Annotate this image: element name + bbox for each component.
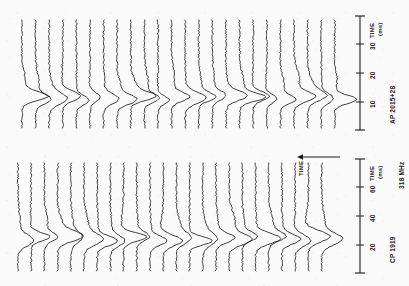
tick-label-bottom-60: 60 <box>370 185 377 193</box>
pulse-trace <box>83 163 103 271</box>
pulse-trace <box>48 20 67 128</box>
tick-label-bottom-40: 40 <box>370 214 377 222</box>
frequency-label: 318 MHz <box>399 162 406 189</box>
axis-title-top-line2: (ms) <box>377 23 383 36</box>
pulse-trace <box>198 20 216 128</box>
pulse-trace <box>89 20 101 128</box>
axis-title-top-line1: TIME <box>369 23 375 38</box>
tick-label-top-20: 20 <box>370 71 377 79</box>
pulse-trace <box>307 20 328 128</box>
pulse-trace <box>225 20 247 128</box>
pulse-trace <box>171 20 190 128</box>
pulse-trace <box>266 20 277 128</box>
pulse-trace <box>212 20 226 128</box>
pulse-stack-panel-bottom: 20 40 60 TIME (ms) CP 1919 318 MHz <box>0 143 409 286</box>
pulse-trace <box>130 20 156 128</box>
pulse-trace <box>136 163 150 271</box>
tick-label-top-30: 30 <box>370 42 377 50</box>
time-arrow-label: TIME <box>298 161 304 176</box>
pulse-trace <box>215 163 235 271</box>
pulse-trace <box>44 163 58 271</box>
pulse-trace <box>321 20 334 128</box>
pulse-trace <box>268 163 286 271</box>
axis-title-bottom-line2: (ms) <box>377 166 383 179</box>
pulse-traces-bottom <box>0 143 409 286</box>
figure-root: 10 20 30 TIME (ms) AP 2015+28 20 40 60 T… <box>0 0 409 286</box>
pulse-trace <box>281 163 301 271</box>
pulse-stack-panel-top: 10 20 30 TIME (ms) AP 2015+28 <box>0 0 409 143</box>
pulse-trace <box>110 163 125 271</box>
pulse-trace <box>321 163 343 271</box>
pulse-trace <box>305 163 331 271</box>
pulse-trace <box>70 163 82 271</box>
pulse-trace <box>157 20 169 128</box>
axis-title-bottom-line1: TIME <box>369 166 375 181</box>
pulse-trace <box>116 20 137 128</box>
pulse-trace <box>184 20 206 128</box>
pulse-trace <box>57 163 83 271</box>
pulse-trace <box>76 20 90 128</box>
pulse-trace <box>228 163 252 271</box>
pulse-trace <box>30 163 50 271</box>
source-label-top: AP 2015+28 <box>390 86 397 124</box>
pulse-trace <box>62 20 81 128</box>
pulse-trace <box>255 163 281 271</box>
pulse-trace <box>97 163 118 271</box>
pulse-trace <box>293 20 316 128</box>
source-label-bottom: CP 1919 <box>390 236 397 263</box>
time-axis-top <box>352 14 368 132</box>
pulse-traces-top <box>0 0 409 143</box>
tick-label-top-10: 10 <box>370 100 377 108</box>
pulse-trace <box>202 163 218 271</box>
time-axis-bottom <box>352 157 368 275</box>
pulse-trace <box>189 163 212 271</box>
tick-label-bottom-20: 20 <box>370 243 377 251</box>
pulse-trace <box>121 163 147 271</box>
